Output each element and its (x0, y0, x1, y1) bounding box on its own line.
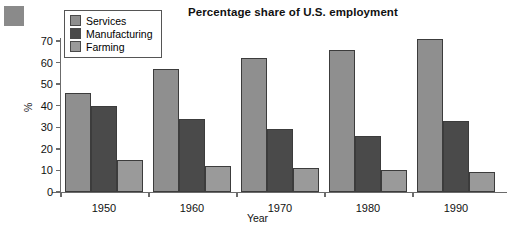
chart-title: Percentage share of U.S. employment (188, 6, 398, 18)
bar-farming-1970 (293, 168, 319, 192)
legend-label: Farming (86, 41, 125, 53)
x-axis-tick-label: 1950 (60, 202, 148, 214)
y-axis-tick-mark (56, 40, 61, 42)
x-axis-tick-mark (236, 192, 238, 197)
bar-services-1990 (417, 39, 443, 192)
bar-manufacturing-1990 (443, 121, 469, 192)
y-axis-tick-mark (56, 127, 61, 129)
bar-services-1950 (65, 93, 91, 192)
legend-swatch-icon (70, 28, 81, 39)
bar-manufacturing-1980 (355, 136, 381, 192)
x-axis-tick-label: 1960 (148, 202, 236, 214)
x-axis-tick-mark (148, 192, 150, 197)
bar-groups: 19501960197019801990 (60, 41, 500, 192)
x-axis-tick-label: 1970 (236, 202, 324, 214)
y-axis-tick-mark (56, 191, 61, 193)
y-axis-title: % (22, 103, 34, 112)
x-axis-tick-label: 1990 (412, 202, 500, 214)
y-axis-tick-mark (56, 83, 61, 85)
legend-item-manufacturing: Manufacturing (70, 27, 153, 40)
bar-chart: Percentage share of U.S. employment Serv… (0, 0, 515, 236)
plot-area: 19501960197019801990 010203040506070 (60, 41, 500, 192)
chart-legend: ServicesManufacturingFarming (64, 10, 162, 58)
bar-farming-1950 (117, 160, 143, 192)
bar-group-1960: 1960 (148, 41, 236, 192)
bar-group-1970: 1970 (236, 41, 324, 192)
bar-farming-1980 (381, 170, 407, 192)
bar-group-1980: 1980 (324, 41, 412, 192)
y-axis-tick-mark (56, 170, 61, 172)
legend-label: Services (86, 15, 126, 27)
bar-services-1960 (153, 69, 179, 192)
bar-farming-1960 (205, 166, 231, 192)
bar-farming-1990 (469, 172, 495, 192)
bar-group-1990: 1990 (412, 41, 500, 192)
legend-item-services: Services (70, 14, 153, 27)
bar-manufacturing-1970 (267, 129, 293, 192)
x-axis-tick-label: 1980 (324, 202, 412, 214)
x-axis-tick-mark (60, 192, 62, 197)
x-axis-tick-mark (324, 192, 326, 197)
bar-manufacturing-1960 (179, 119, 205, 192)
y-axis-tick-mark (56, 148, 61, 150)
corner-decoration-square (4, 6, 24, 26)
legend-swatch-icon (70, 41, 81, 52)
legend-swatch-icon (70, 15, 81, 26)
x-axis-tick-mark (412, 192, 414, 197)
bar-services-1970 (241, 58, 267, 192)
legend-label: Manufacturing (86, 28, 153, 40)
legend-item-farming: Farming (70, 40, 153, 53)
bar-group-1950: 1950 (60, 41, 148, 192)
bar-manufacturing-1950 (91, 106, 117, 192)
y-axis-tick-mark (56, 62, 61, 64)
y-axis-tick-mark (56, 105, 61, 107)
bar-services-1980 (329, 50, 355, 192)
